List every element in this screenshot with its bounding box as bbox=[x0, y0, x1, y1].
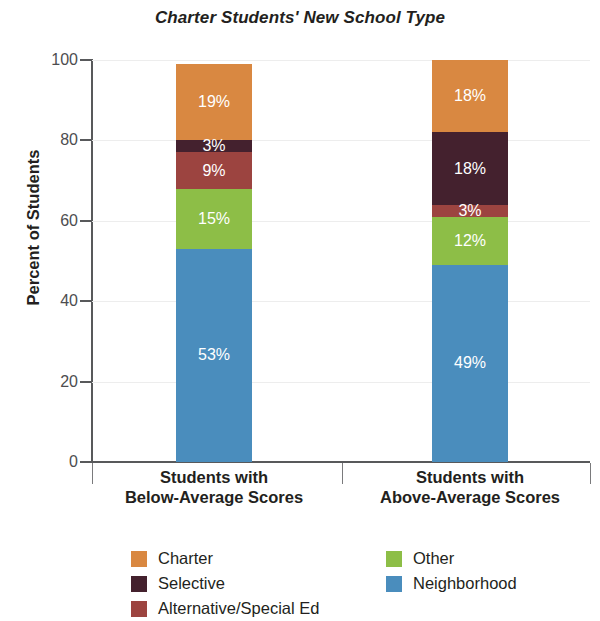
y-axis-tick-label: 40 bbox=[4, 292, 78, 310]
bar-segment[interactable]: 19% bbox=[176, 64, 252, 140]
legend-label: Selective bbox=[158, 574, 225, 593]
gridline bbox=[92, 382, 590, 383]
y-axis-tick-label: 100 bbox=[4, 51, 78, 69]
legend-label: Charter bbox=[158, 549, 213, 568]
gridline bbox=[92, 140, 590, 141]
bar-segment[interactable]: 15% bbox=[176, 189, 252, 249]
legend-item[interactable]: Other bbox=[386, 546, 517, 571]
bar-segment-label: 9% bbox=[202, 163, 225, 179]
legend-item[interactable]: Alternative/Special Ed bbox=[131, 596, 319, 621]
x-axis-category-label: Students withAbove-Average Scores bbox=[340, 467, 600, 508]
bar-segment-label: 49% bbox=[454, 355, 486, 371]
legend-color-swatch bbox=[131, 601, 147, 617]
x-axis-category-tick bbox=[92, 463, 93, 484]
bar-segment[interactable]: 9% bbox=[176, 152, 252, 188]
x-axis-category-label: Students withBelow-Average Scores bbox=[84, 467, 344, 508]
y-axis-tick bbox=[80, 59, 91, 61]
y-axis-tick bbox=[80, 220, 91, 222]
y-axis-tick bbox=[80, 461, 91, 463]
bar-segment[interactable]: 53% bbox=[176, 249, 252, 462]
legend-label: Other bbox=[413, 549, 454, 568]
bar-segment[interactable]: 49% bbox=[432, 265, 508, 462]
bar-segment-label: 18% bbox=[454, 88, 486, 104]
y-axis-tick-label: 60 bbox=[4, 212, 78, 230]
legend-color-swatch bbox=[131, 551, 147, 567]
legend-item[interactable]: Neighborhood bbox=[386, 571, 517, 596]
legend-column-right: OtherNeighborhood bbox=[386, 546, 517, 596]
legend-item[interactable]: Selective bbox=[131, 571, 319, 596]
stacked-bar[interactable]: 18%18%3%12%49% bbox=[432, 60, 508, 462]
legend-label: Neighborhood bbox=[413, 574, 517, 593]
bar-segment[interactable]: 18% bbox=[432, 60, 508, 132]
bar-segment-label: 12% bbox=[454, 233, 486, 249]
bar-segment[interactable]: 12% bbox=[432, 217, 508, 265]
legend-column-left: CharterSelectiveAlternative/Special Ed bbox=[131, 546, 319, 621]
legend-color-swatch bbox=[131, 576, 147, 592]
gridline bbox=[92, 301, 590, 302]
gridline bbox=[92, 221, 590, 222]
bar-segment[interactable]: 3% bbox=[432, 205, 508, 217]
chart-legend: CharterSelectiveAlternative/Special Ed O… bbox=[0, 546, 600, 621]
x-axis-category-tick bbox=[590, 463, 591, 484]
y-axis-tick-label: 20 bbox=[4, 373, 78, 391]
y-axis-tick-labels: 020406080100 bbox=[0, 0, 78, 621]
legend-color-swatch bbox=[386, 576, 402, 592]
bar-segment[interactable]: 3% bbox=[176, 140, 252, 152]
bar-segment-label: 15% bbox=[198, 211, 230, 227]
plot-area: 19%3%9%15%53%18%18%3%12%49% bbox=[92, 60, 590, 462]
stacked-bar[interactable]: 19%3%9%15%53% bbox=[176, 64, 252, 462]
y-axis-tick-label: 0 bbox=[4, 453, 78, 471]
x-axis-category-tick bbox=[342, 463, 343, 484]
y-axis-tick bbox=[80, 381, 91, 383]
gridline bbox=[92, 60, 590, 61]
y-axis-tick bbox=[80, 300, 91, 302]
legend-label: Alternative/Special Ed bbox=[158, 599, 319, 618]
bar-segment[interactable]: 18% bbox=[432, 132, 508, 204]
chart-title: Charter Students' New School Type bbox=[0, 8, 600, 28]
bar-segment-label: 18% bbox=[454, 161, 486, 177]
bar-segment-label: 19% bbox=[198, 94, 230, 110]
y-axis-tick bbox=[80, 139, 91, 141]
y-axis-tick-label: 80 bbox=[4, 131, 78, 149]
bar-segment-label: 53% bbox=[198, 347, 230, 363]
legend-color-swatch bbox=[386, 551, 402, 567]
legend-item[interactable]: Charter bbox=[131, 546, 319, 571]
